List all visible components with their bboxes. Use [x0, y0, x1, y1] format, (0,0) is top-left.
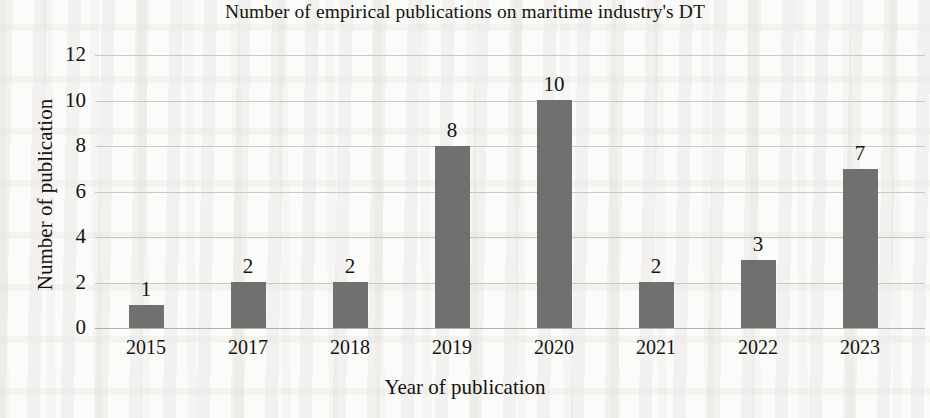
- bar-value-label-2015: 1: [116, 279, 176, 300]
- gridline-0: [95, 328, 925, 329]
- bar-value-label-2018: 2: [320, 256, 380, 277]
- bar-value-label-2019: 8: [422, 120, 482, 141]
- gridline-8: [95, 146, 925, 147]
- bar-value-label-2022: 3: [728, 234, 788, 255]
- x-tick-label-2015: 2015: [106, 337, 186, 357]
- bar-2018[interactable]: [333, 282, 368, 328]
- x-tick-label-2017: 2017: [208, 337, 288, 357]
- x-tick-label-2023: 2023: [820, 337, 900, 357]
- bar-2019[interactable]: [435, 146, 470, 328]
- gridline-10: [95, 101, 925, 102]
- bar-2020[interactable]: [537, 100, 572, 328]
- bar-2022[interactable]: [741, 260, 776, 328]
- x-axis-title: Year of publication: [0, 375, 930, 400]
- bar-2021[interactable]: [639, 282, 674, 328]
- x-tick-label-2020: 2020: [514, 337, 594, 357]
- bar-value-label-2020: 10: [524, 74, 584, 95]
- bar-value-label-2017: 2: [218, 256, 278, 277]
- bar-2017[interactable]: [231, 282, 266, 328]
- x-tick-label-2022: 2022: [718, 337, 798, 357]
- x-tick-label-2019: 2019: [412, 337, 492, 357]
- chart-figure: Number of empirical publications on mari…: [0, 0, 930, 418]
- plot-area: 122810237: [95, 55, 925, 328]
- bar-2023[interactable]: [843, 169, 878, 328]
- gridline-2: [95, 283, 925, 284]
- chart-title: Number of empirical publications on mari…: [0, 1, 930, 23]
- bar-value-label-2021: 2: [626, 256, 686, 277]
- bar-2015[interactable]: [129, 305, 164, 328]
- y-axis-title: Number of publication: [33, 50, 58, 340]
- bar-value-label-2023: 7: [830, 143, 890, 164]
- gridline-12: [95, 55, 925, 56]
- gridline-4: [95, 237, 925, 238]
- x-tick-label-2018: 2018: [310, 337, 390, 357]
- gridline-6: [95, 192, 925, 193]
- x-tick-label-2021: 2021: [616, 337, 696, 357]
